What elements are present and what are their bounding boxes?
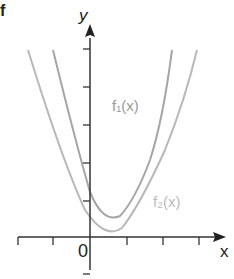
- y-axis-label: y: [79, 6, 88, 26]
- x-ticks: [18, 237, 199, 245]
- origin-label: 0: [78, 241, 88, 262]
- x-axis-label: x: [220, 242, 229, 262]
- graph: [0, 0, 234, 279]
- f2-label: f₂(x): [153, 193, 180, 210]
- f1-label: f₁(x): [112, 97, 139, 114]
